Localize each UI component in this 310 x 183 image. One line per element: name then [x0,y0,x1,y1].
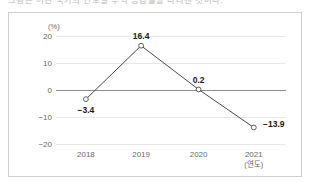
y-tick-label-minus-10: −10 [38,113,52,122]
x-tick-text-2018: 2018 [77,150,95,159]
x-axis-note: (연도) [244,160,263,169]
x-tick-text-2019: 2019 [132,150,150,159]
x-tick-label-2019: 2019 [132,150,150,160]
plot-area: (%) 20 10 0 −10 −20 2018 2019 [56,36,286,144]
point-label-2018: −3.4 [78,105,95,115]
point-label-2019: 16.4 [133,31,150,41]
line-series [56,36,286,144]
x-tick-label-2020: 2020 [190,150,208,160]
y-tick-label-minus-20: −20 [38,140,52,149]
point-label-2021: −13.9 [263,119,285,129]
gridline-minus-20: −20 [56,144,286,145]
y-tick-label-20: 20 [43,32,52,41]
caption-text: 그림은 어떤 국가의 연도별 무역 증감률을 나타낸 것이다. [8,0,223,5]
y-tick-label-10: 10 [43,59,52,68]
point-label-2020: 0.2 [193,75,205,85]
cut-off-caption: 그림은 어떤 국가의 연도별 무역 증감률을 나타낸 것이다. [8,0,304,7]
chart-screenshot: 그림은 어떤 국가의 연도별 무역 증감률을 나타낸 것이다. (%) 20 1… [0,0,310,183]
x-tick-label-2018: 2018 [77,150,95,160]
x-tick-text-2021: 2021 [245,150,263,159]
y-tick-label-0: 0 [48,86,52,95]
chart-frame: (%) 20 10 0 −10 −20 2018 2019 [8,12,302,177]
x-tick-label-2021: 2021 (연도) [244,150,263,169]
x-tick-text-2020: 2020 [190,150,208,159]
y-axis-unit-label: (%) [48,22,60,31]
